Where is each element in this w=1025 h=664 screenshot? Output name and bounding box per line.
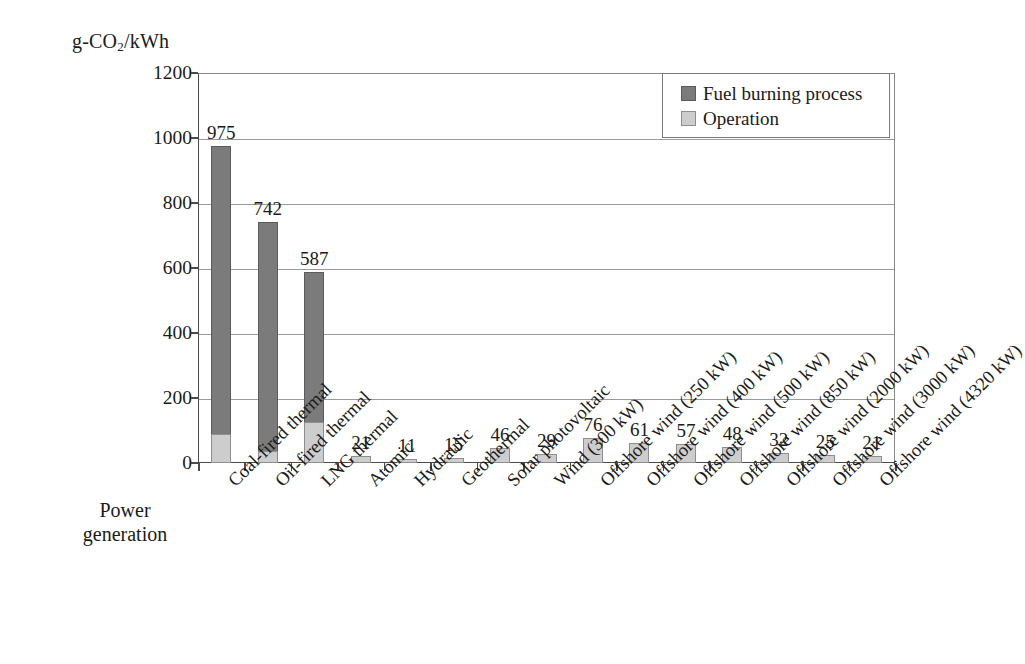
legend-label-operation: Operation: [703, 109, 779, 128]
y-axis-tick-label: 200: [132, 388, 192, 408]
y-axis-tick-label: 600: [132, 258, 192, 278]
y-axis-tick-label: 1000: [132, 128, 192, 148]
bar-value-label: 742: [253, 199, 282, 218]
bar-group: 29: [537, 73, 557, 463]
bar-group: 46: [490, 73, 510, 463]
bar-group: 15: [444, 73, 464, 463]
x-axis-title-line-1: Power: [55, 498, 195, 522]
y-axis-tick-label: 800: [132, 193, 192, 213]
x-axis-category-labels: Coal-fired thermalOil-fired thermalLNG t…: [0, 463, 931, 664]
y-axis-tick-mark: [191, 72, 198, 74]
y-axis-tick-mark: [191, 202, 198, 204]
y-axis-tick-mark: [191, 267, 198, 269]
bar-segment-operation: [211, 434, 231, 463]
legend-swatch-icon-operation: [681, 111, 696, 126]
y-axis-unit-label: g-CO2/kWh: [72, 30, 169, 55]
y-axis-tick-mark: [191, 137, 198, 139]
legend-item-operation: Operation: [681, 106, 889, 131]
bar-value-label: 587: [300, 249, 329, 268]
bar-segment-fuel-burning-process: [211, 146, 231, 434]
y-axis-tick-label: 1200: [132, 63, 192, 83]
bar-segment-fuel-burning-process: [258, 222, 278, 451]
y-axis-tick-label: 400: [132, 323, 192, 343]
chart-legend: Fuel burning process Operation: [662, 73, 890, 138]
y-axis-tick-mark: [191, 397, 198, 399]
legend-label-fuel: Fuel burning process: [703, 84, 862, 103]
x-axis-title-line-2: generation: [55, 522, 195, 546]
y-axis-tick-labels: 020040060080010001200: [130, 73, 192, 463]
legend-swatch-icon-fuel: [681, 86, 696, 101]
bar-group: 11: [397, 73, 417, 463]
bar-group: 975: [211, 73, 231, 463]
bar-stack: [211, 146, 231, 463]
x-axis-title: Power generation: [55, 498, 195, 547]
y-axis-tick-mark: [191, 332, 198, 334]
legend-item-fuel-burning-process: Fuel burning process: [681, 81, 889, 106]
bar-group: 742: [258, 73, 278, 463]
bar-value-label: 975: [207, 123, 236, 142]
